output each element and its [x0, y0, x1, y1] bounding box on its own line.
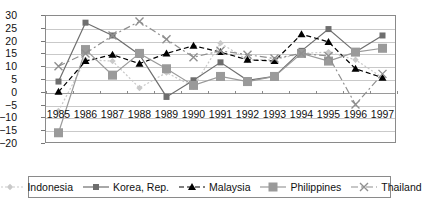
data-point-marker: [378, 44, 387, 53]
data-point-marker: [136, 85, 142, 91]
y-axis-tick-label: 30: [0, 10, 17, 20]
data-point-marker: [352, 57, 358, 63]
data-point-marker: [108, 71, 117, 80]
data-point-marker: [190, 42, 198, 49]
x-axis-tick-label: 1993: [263, 108, 286, 120]
legend-key-diamond-icon: [0, 181, 23, 193]
legend-key-square-icon: [83, 181, 109, 193]
x-axis-tick-label: 1991: [209, 108, 232, 120]
x-axis-tick-label: 1992: [236, 108, 259, 120]
y-axis-tick-label: −10: [0, 112, 17, 122]
data-point-marker: [163, 35, 171, 43]
legend-item-label: Malaysia: [209, 181, 250, 193]
data-point-marker: [298, 30, 306, 37]
x-axis-tick-label: 1986: [74, 108, 97, 120]
x-axis-tick-label: 1987: [101, 108, 124, 120]
x-axis-tick-label: 1996: [344, 108, 367, 120]
y-axis-tick-mark: [41, 143, 45, 144]
legend-key-triangle-icon: [179, 181, 205, 193]
data-point-marker: [380, 32, 386, 38]
legend-item-korea-rep[interactable]: Korea, Rep.: [83, 181, 169, 193]
data-point-marker: [109, 51, 117, 58]
data-point-marker: [189, 81, 198, 90]
legend-key-cross-icon: [351, 181, 377, 193]
x-axis-tick-label: 1990: [182, 108, 205, 120]
legend-item-label: Korea, Rep.: [113, 181, 169, 193]
legend-item-label: Thailand: [381, 181, 421, 193]
x-axis-tick-mark: [397, 91, 398, 94]
y-axis-tick-label: 10: [0, 61, 17, 71]
y-axis-tick-label: −15: [0, 125, 17, 135]
legend-item-label: Philippines: [290, 181, 341, 193]
data-point-marker: [162, 64, 171, 73]
data-point-marker: [269, 183, 278, 192]
x-axis-tick-label: 1995: [317, 108, 340, 120]
series-korea-rep: [56, 20, 386, 100]
data-point-marker: [243, 77, 252, 86]
data-point-marker: [270, 72, 279, 81]
x-axis-tick-label: 1994: [290, 108, 313, 120]
y-axis-tick-label: −5: [0, 100, 17, 110]
x-axis-tick-label: 1988: [128, 108, 151, 120]
y-axis-tick-label: 25: [0, 23, 17, 33]
data-point-marker: [190, 53, 198, 61]
x-axis-tick-label: 1989: [155, 108, 178, 120]
legend-key-bigsquare-icon: [260, 181, 286, 193]
legend-item-malaysia[interactable]: Malaysia: [179, 181, 250, 193]
data-point-marker: [136, 17, 144, 25]
data-point-marker: [56, 79, 62, 85]
data-point-marker: [164, 94, 170, 100]
y-axis-tick-label: 20: [0, 36, 17, 46]
legend-item-thailand[interactable]: Thailand: [351, 181, 421, 193]
y-axis-tick-label: 0: [0, 87, 17, 97]
data-point-marker: [351, 48, 360, 57]
x-axis: 1985198619871988198919901991199219931994…: [45, 108, 396, 124]
data-point-marker: [217, 40, 223, 46]
chart-legend: IndonesiaKorea, Rep.MalaysiaPhilippinesT…: [28, 176, 391, 198]
legend-item-philippines[interactable]: Philippines: [260, 181, 341, 193]
data-point-marker: [7, 184, 13, 190]
data-point-marker: [55, 62, 63, 70]
y-axis-tick-label: 5: [0, 74, 17, 84]
x-axis-tick-label: 1985: [47, 108, 70, 120]
data-point-marker: [218, 59, 224, 65]
legend-item-indonesia[interactable]: Indonesia: [0, 181, 73, 193]
legend-item-label: Indonesia: [27, 181, 73, 193]
y-axis-tick-label: −20: [0, 138, 17, 148]
data-point-marker: [326, 26, 332, 32]
data-point-marker: [135, 49, 144, 58]
data-point-marker: [216, 72, 225, 81]
y-axis-tick-label: 15: [0, 48, 17, 58]
data-point-marker: [93, 184, 99, 190]
data-point-marker: [83, 20, 89, 26]
data-point-marker: [54, 128, 63, 137]
x-axis-tick-label: 1997: [371, 108, 394, 120]
